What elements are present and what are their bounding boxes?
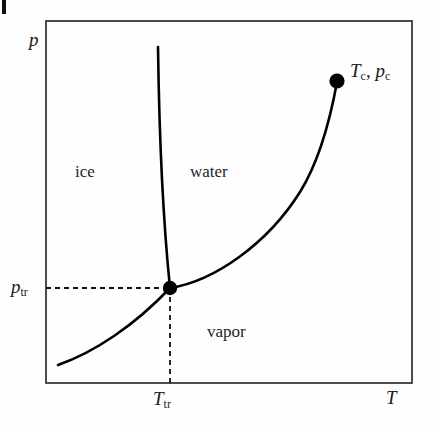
pc-symbol: p <box>375 60 385 81</box>
region-label-water: water <box>190 163 228 180</box>
ptr-subscript: tr <box>21 286 28 299</box>
tc-symbol: T <box>350 60 361 81</box>
ptr-symbol: p <box>11 276 21 297</box>
region-label-vapor: vapor <box>207 323 246 340</box>
ttr-subscript: tr <box>164 398 171 411</box>
y-axis-label: p <box>29 30 39 49</box>
ttr-symbol: T <box>153 388 164 409</box>
x-axis-label: T <box>386 388 397 407</box>
ptr-axis-label: ptr <box>11 277 28 299</box>
ttr-axis-label: Ttr <box>153 389 171 411</box>
figure-canvas: p T ice water vapor ptr Ttr Tc, pc <box>0 0 434 433</box>
critical-point-marker <box>329 73 344 88</box>
pc-subscript: c <box>385 70 390 83</box>
region-label-ice: ice <box>75 163 95 180</box>
triple-point-marker <box>163 281 177 295</box>
label-separator: , <box>366 60 376 81</box>
critical-point-label: Tc, pc <box>350 61 390 83</box>
